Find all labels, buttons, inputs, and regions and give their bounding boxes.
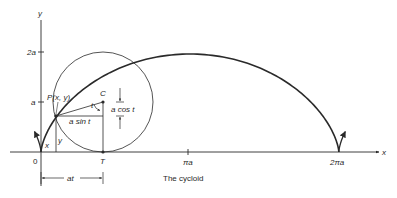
caption: The cycloid bbox=[163, 174, 203, 183]
x-coord-label: x bbox=[44, 141, 50, 150]
x-tick-label-2pi-a: 2πa bbox=[329, 158, 345, 167]
angle-t-label: t bbox=[91, 101, 94, 110]
y-tick-label-a: a bbox=[31, 98, 36, 107]
p-label-pointer bbox=[56, 102, 58, 114]
a-sin-t-label: a sin t bbox=[69, 117, 91, 126]
point-t bbox=[101, 150, 104, 153]
point-t-label: T bbox=[100, 157, 106, 166]
cycloid-right-continuation bbox=[339, 132, 345, 153]
x-tick-label-pi-a: πa bbox=[183, 158, 193, 167]
cycloid-curve bbox=[41, 54, 339, 152]
cycloid-left-continuation bbox=[35, 132, 41, 153]
origin-label: 0 bbox=[33, 157, 38, 166]
point-c-label: C bbox=[100, 89, 106, 98]
y-axis-label: y bbox=[37, 9, 43, 18]
angle-t-arc bbox=[94, 105, 100, 111]
y-tick-label-2a: 2a bbox=[26, 48, 36, 57]
point-c bbox=[101, 100, 104, 103]
cycloid-diagram: x y 0 2a a πa 2πa P(x, y) C T t a sin t … bbox=[0, 0, 397, 198]
point-p bbox=[54, 114, 58, 118]
x-axis-label: x bbox=[381, 148, 387, 157]
point-p-label: P(x, y) bbox=[47, 93, 70, 102]
a-cos-t-label: a cos t bbox=[111, 105, 135, 114]
at-label: at bbox=[67, 174, 74, 183]
y-coord-label: y bbox=[57, 136, 63, 145]
